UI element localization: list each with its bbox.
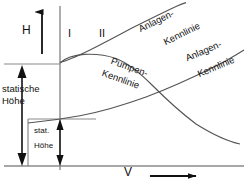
operating-point-1-label: I <box>68 28 71 40</box>
static-height-inner-label-line2: Höhe <box>34 141 53 151</box>
x-axis-label: V <box>124 166 132 179</box>
static-height-outer-arrow <box>18 65 27 166</box>
static-height-outer-label-line1: statische <box>2 83 40 94</box>
static-height-inner-label-line1: stat. <box>34 126 49 136</box>
static-height-outer-label-line2: Höhe <box>2 95 25 106</box>
static-height-inner-arrow <box>56 119 63 166</box>
y-axis-label: H <box>22 24 31 37</box>
operating-point-2-label: II <box>99 28 105 40</box>
pump-system-characteristic-diagram: H V I II statische Höhe stat. Höhe Anlag… <box>0 0 248 186</box>
